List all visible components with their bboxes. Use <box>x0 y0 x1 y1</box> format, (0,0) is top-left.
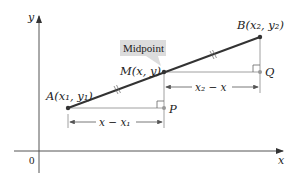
label-Q: Q <box>265 65 275 79</box>
point-M <box>162 70 166 74</box>
dimension-lower-label: x − x₁ <box>99 116 131 128</box>
label-M: M(x, y) <box>119 64 161 78</box>
label-B: B(x₂, y₂) <box>236 18 284 32</box>
label-A: A(x₁, y₁) <box>45 89 93 103</box>
y-axis-label: y <box>27 11 35 24</box>
label-P: P <box>168 102 177 116</box>
point-Q <box>258 70 262 74</box>
origin-label: 0 <box>29 154 35 166</box>
dimension-upper-label: x₂ − x <box>195 81 227 93</box>
x-axis-label: x <box>278 154 285 167</box>
diagram-canvas: y x 0 Midpoint M(x, y) A(x₁, y₁) B(x₂, y… <box>0 0 296 183</box>
point-P <box>162 106 166 110</box>
point-B <box>258 35 262 39</box>
point-A <box>66 106 70 110</box>
midpoint-diagram: y x 0 Midpoint M(x, y) A(x₁, y₁) B(x₂, y… <box>0 0 296 183</box>
callout-text: Midpoint <box>123 42 164 54</box>
